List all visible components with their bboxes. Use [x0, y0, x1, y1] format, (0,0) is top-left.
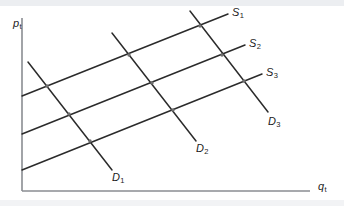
- intersection-node-s2-d1: [67, 112, 70, 115]
- intersection-node-s2-d3: [220, 53, 223, 56]
- curve-label-d1: D1: [112, 172, 124, 183]
- supply-demand-figure: pt qt S1S2S3D1D2D3: [0, 0, 344, 206]
- intersection-node-s2-d2: [150, 81, 153, 84]
- subscript: t: [324, 185, 326, 194]
- curve-label-s2: S2: [249, 38, 261, 49]
- curve-label-d2: D2: [196, 143, 208, 154]
- curve-line-s2: [22, 45, 245, 134]
- y-axis-label: pt: [13, 18, 21, 29]
- subscript: 3: [276, 120, 280, 129]
- subscript: 1: [240, 11, 244, 20]
- intersection-node-s3-d2: [171, 108, 174, 111]
- curve-label-d3: D3: [268, 116, 280, 127]
- curve-line-d2: [112, 33, 196, 141]
- intersection-node-s1-d2: [127, 53, 130, 56]
- x-axis-label: qt: [318, 181, 326, 192]
- curves-group: [22, 11, 268, 170]
- plot-canvas: [0, 0, 344, 206]
- subscript: 2: [257, 42, 261, 51]
- subscript: 2: [204, 147, 208, 156]
- intersection-node-s1-d3: [198, 24, 201, 27]
- subscript: t: [19, 22, 21, 31]
- curve-label-s3: S3: [266, 67, 278, 78]
- subscript: 1: [120, 176, 124, 185]
- axes-group: [22, 18, 310, 191]
- intersection-nodes-group: [45, 24, 245, 142]
- curve-line-d1: [28, 62, 112, 170]
- curve-label-s1: S1: [232, 7, 244, 18]
- intersection-node-s1-d1: [45, 84, 48, 87]
- curve-line-s3: [22, 74, 262, 170]
- subscript: 3: [274, 71, 278, 80]
- intersection-node-s3-d1: [88, 139, 91, 142]
- curve-line-s1: [22, 14, 228, 96]
- intersection-node-s3-d3: [242, 79, 245, 82]
